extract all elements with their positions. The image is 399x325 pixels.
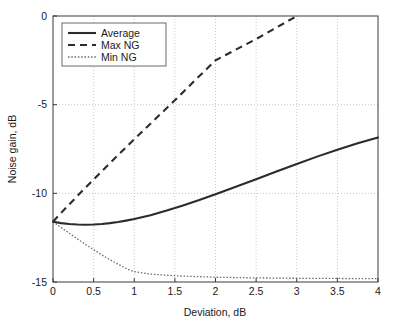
legend-label-min-ng: Min NG	[101, 51, 137, 63]
x-tick-label: 0.5	[86, 285, 101, 297]
x-tick-label: 2.5	[249, 285, 264, 297]
legend-label-average: Average	[101, 27, 140, 39]
x-tick-label: 4	[375, 285, 381, 297]
x-tick-label: 1	[131, 285, 137, 297]
x-tick-label: 0	[50, 285, 56, 297]
y-axis-tick-labels: 0-5-10-15	[32, 10, 47, 288]
x-axis-title: Deviation, dB	[184, 306, 246, 318]
y-tick-label: -10	[32, 187, 47, 199]
noise-gain-line-chart: 00.511.522.533.54 0-5-10-15 Deviation, d…	[0, 0, 399, 325]
legend-label-max-ng: Max NG	[101, 39, 140, 51]
x-axis-tick-labels: 00.511.522.533.54	[50, 285, 381, 297]
y-tick-label: 0	[41, 10, 47, 22]
x-tick-label: 3	[294, 285, 300, 297]
y-tick-label: -5	[38, 98, 47, 110]
legend: Average Max NG Min NG	[62, 23, 166, 66]
x-tick-label: 3.5	[330, 285, 345, 297]
y-axis-ticks	[53, 16, 57, 282]
y-tick-label: -15	[32, 276, 47, 288]
x-tick-label: 2	[213, 285, 219, 297]
x-tick-label: 1.5	[168, 285, 183, 297]
chart-figure: 00.511.522.533.54 0-5-10-15 Deviation, d…	[0, 0, 399, 325]
y-axis-title: Noise gain, dB	[6, 115, 18, 183]
